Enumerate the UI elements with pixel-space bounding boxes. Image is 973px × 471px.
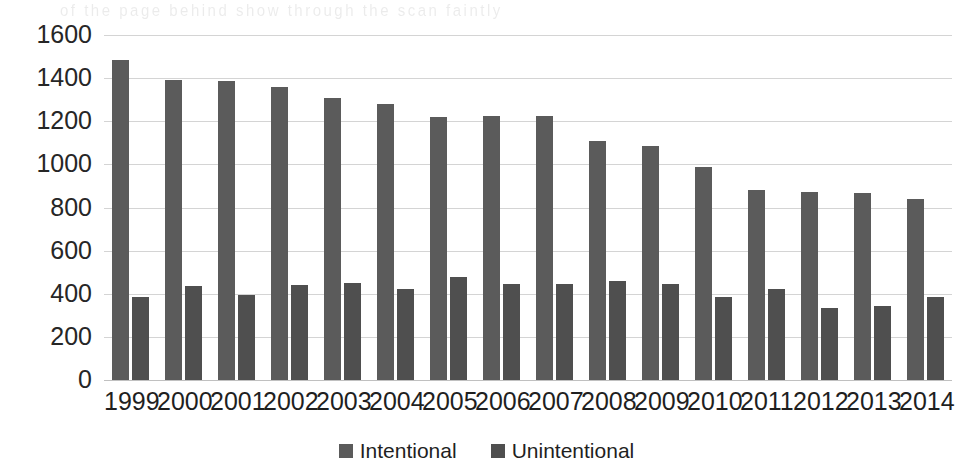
bar-group-2010 xyxy=(687,35,740,380)
bar-unintentional-2008 xyxy=(609,281,626,380)
y-tick-label-1000: 1000 xyxy=(6,151,92,176)
x-tick-label-2004: 2004 xyxy=(369,386,422,416)
y-tick-label-1600: 1600 xyxy=(6,22,92,47)
bar-group-2005 xyxy=(422,35,475,380)
bar-group-2001 xyxy=(210,35,263,380)
legend-item-intentional[interactable]: Intentional xyxy=(339,440,457,461)
y-tick-label-1200: 1200 xyxy=(6,108,92,133)
bar-unintentional-2001 xyxy=(238,295,255,380)
x-axis: 1999200020012002200320042005200620072008… xyxy=(104,386,952,420)
bar-group-2013 xyxy=(846,35,899,380)
bar-unintentional-2007 xyxy=(556,284,573,380)
bar-intentional-2011 xyxy=(748,190,765,380)
y-tick-label-0: 0 xyxy=(6,367,92,392)
bar-intentional-2002 xyxy=(271,87,288,380)
bar-intentional-2006 xyxy=(483,116,500,380)
x-tick-label-2005: 2005 xyxy=(422,386,475,416)
chart-legend: IntentionalUnintentional xyxy=(0,440,973,461)
legend-swatch-icon-intentional xyxy=(339,444,353,458)
bar-unintentional-2014 xyxy=(927,297,944,380)
x-tick-label-2012: 2012 xyxy=(793,386,846,416)
bar-intentional-2000 xyxy=(165,80,182,380)
plot-area xyxy=(104,35,952,380)
x-tick-label-2010: 2010 xyxy=(687,386,740,416)
bar-intentional-2009 xyxy=(642,146,659,380)
bar-intentional-2007 xyxy=(536,116,553,380)
bar-intentional-2005 xyxy=(430,117,447,380)
bar-unintentional-2010 xyxy=(715,297,732,380)
bar-unintentional-2000 xyxy=(185,286,202,380)
x-tick-label-2003: 2003 xyxy=(316,386,369,416)
bar-group-2014 xyxy=(899,35,952,380)
bar-unintentional-2002 xyxy=(291,285,308,380)
legend-label-intentional: Intentional xyxy=(360,440,457,461)
y-tick-label-200: 200 xyxy=(6,324,92,349)
bar-intentional-2013 xyxy=(854,193,871,380)
y-tick-label-800: 800 xyxy=(6,195,92,220)
bar-chart: of the page behind show through the scan… xyxy=(0,0,973,471)
bar-intentional-2004 xyxy=(377,104,394,380)
x-tick-label-2013: 2013 xyxy=(846,386,899,416)
bar-group-2003 xyxy=(316,35,369,380)
x-tick-label-2009: 2009 xyxy=(634,386,687,416)
bar-unintentional-2003 xyxy=(344,283,361,380)
bar-intentional-2008 xyxy=(589,141,606,380)
bar-group-2006 xyxy=(475,35,528,380)
bar-group-2012 xyxy=(793,35,846,380)
legend-label-unintentional: Unintentional xyxy=(512,440,635,461)
bar-intentional-2014 xyxy=(907,199,924,380)
bar-group-2004 xyxy=(369,35,422,380)
gridline-0 xyxy=(104,380,952,381)
bar-unintentional-2004 xyxy=(397,289,414,380)
bar-group-2007 xyxy=(528,35,581,380)
x-tick-label-2006: 2006 xyxy=(475,386,528,416)
x-tick-label-2002: 2002 xyxy=(263,386,316,416)
bar-group-2008 xyxy=(581,35,634,380)
y-axis: 02004006008001000120014001600 xyxy=(0,35,92,380)
bar-unintentional-2011 xyxy=(768,289,785,380)
y-tick-label-400: 400 xyxy=(6,281,92,306)
bar-intentional-2010 xyxy=(695,167,712,380)
bar-group-1999 xyxy=(104,35,157,380)
bar-group-2000 xyxy=(157,35,210,380)
bar-intentional-2003 xyxy=(324,98,341,380)
x-tick-label-2001: 2001 xyxy=(210,386,263,416)
x-tick-label-2014: 2014 xyxy=(899,386,952,416)
bar-unintentional-2009 xyxy=(662,284,679,380)
x-tick-label-2011: 2011 xyxy=(740,386,793,416)
x-tick-label-1999: 1999 xyxy=(104,386,157,416)
x-tick-label-2000: 2000 xyxy=(157,386,210,416)
y-tick-label-600: 600 xyxy=(6,238,92,263)
bar-group-2009 xyxy=(634,35,687,380)
legend-swatch-icon-unintentional xyxy=(491,444,505,458)
bar-unintentional-2005 xyxy=(450,277,467,380)
bar-unintentional-1999 xyxy=(132,297,149,380)
bar-intentional-2012 xyxy=(801,192,818,380)
bar-group-2002 xyxy=(263,35,316,380)
x-tick-label-2008: 2008 xyxy=(581,386,634,416)
bar-intentional-1999 xyxy=(112,60,129,380)
scan-bleed-through-artifact: of the page behind show through the scan… xyxy=(60,1,950,24)
legend-item-unintentional[interactable]: Unintentional xyxy=(491,440,635,461)
x-tick-label-2007: 2007 xyxy=(528,386,581,416)
bar-group-2011 xyxy=(740,35,793,380)
bar-unintentional-2012 xyxy=(821,308,838,380)
y-tick-label-1400: 1400 xyxy=(6,65,92,90)
bar-unintentional-2013 xyxy=(874,306,891,380)
bar-unintentional-2006 xyxy=(503,284,520,380)
bar-intentional-2001 xyxy=(218,81,235,380)
